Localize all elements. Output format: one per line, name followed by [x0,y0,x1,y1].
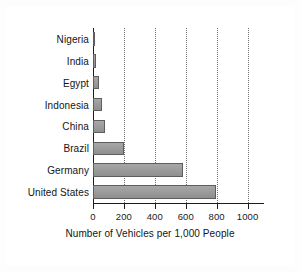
page-background: NigeriaIndiaEgyptIndonesiaChinaBrazilGer… [0,0,300,272]
gridline-600 [186,28,187,203]
tick-1000 [248,203,249,209]
bar-china [93,120,105,134]
x-axis-title: Number of Vehicles per 1,000 People [5,228,295,239]
bar-united-states [93,185,216,199]
chart-card: NigeriaIndiaEgyptIndonesiaChinaBrazilGer… [5,6,295,266]
tick-600 [186,203,187,209]
bar-india [93,54,96,68]
tick-label-200: 200 [116,211,132,222]
category-label-egypt: Egypt [63,77,89,88]
gridline-1000 [248,28,249,203]
gridline-800 [217,28,218,203]
bar-chart: NigeriaIndiaEgyptIndonesiaChinaBrazilGer… [5,6,295,266]
tick-200 [124,203,125,209]
category-label-india: India [67,55,89,66]
tick-label-400: 400 [147,211,163,222]
category-label-indonesia: Indonesia [45,99,89,110]
category-label-china: China [62,121,89,132]
category-label-nigeria: Nigeria [57,33,89,44]
tick-800 [217,203,218,209]
tick-400 [155,203,156,209]
tick-label-1000: 1000 [237,211,259,222]
tick-label-800: 800 [209,211,225,222]
bar-egypt [93,76,99,90]
bar-nigeria [93,32,95,46]
tick-label-0: 0 [90,211,95,222]
bar-germany [93,163,183,177]
bar-brazil [93,142,124,156]
category-label-brazil: Brazil [63,143,89,154]
category-label-germany: Germany [47,165,89,176]
category-label-united-states: United States [28,187,89,198]
tick-label-600: 600 [178,211,194,222]
bar-indonesia [93,98,102,112]
tick-0 [93,203,94,209]
x-axis-line [93,203,264,204]
